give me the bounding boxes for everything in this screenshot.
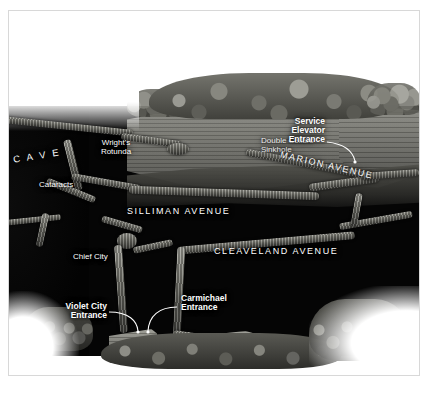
white-bleed-bottom-right [309, 286, 419, 375]
passage-rotunda-node [167, 143, 189, 155]
illustration-page: C A V E Wright's Rotunda Cataracts Doubl… [0, 0, 442, 405]
cave-illustration: C A V E Wright's Rotunda Cataracts Doubl… [9, 11, 419, 375]
rubble-bottom [101, 333, 341, 369]
tree-canopy-right [367, 83, 419, 115]
white-bleed-bottom-left [9, 291, 79, 371]
tree-canopy-main [149, 73, 399, 119]
image-frame: C A V E Wright's Rotunda Cataracts Doubl… [8, 10, 420, 376]
